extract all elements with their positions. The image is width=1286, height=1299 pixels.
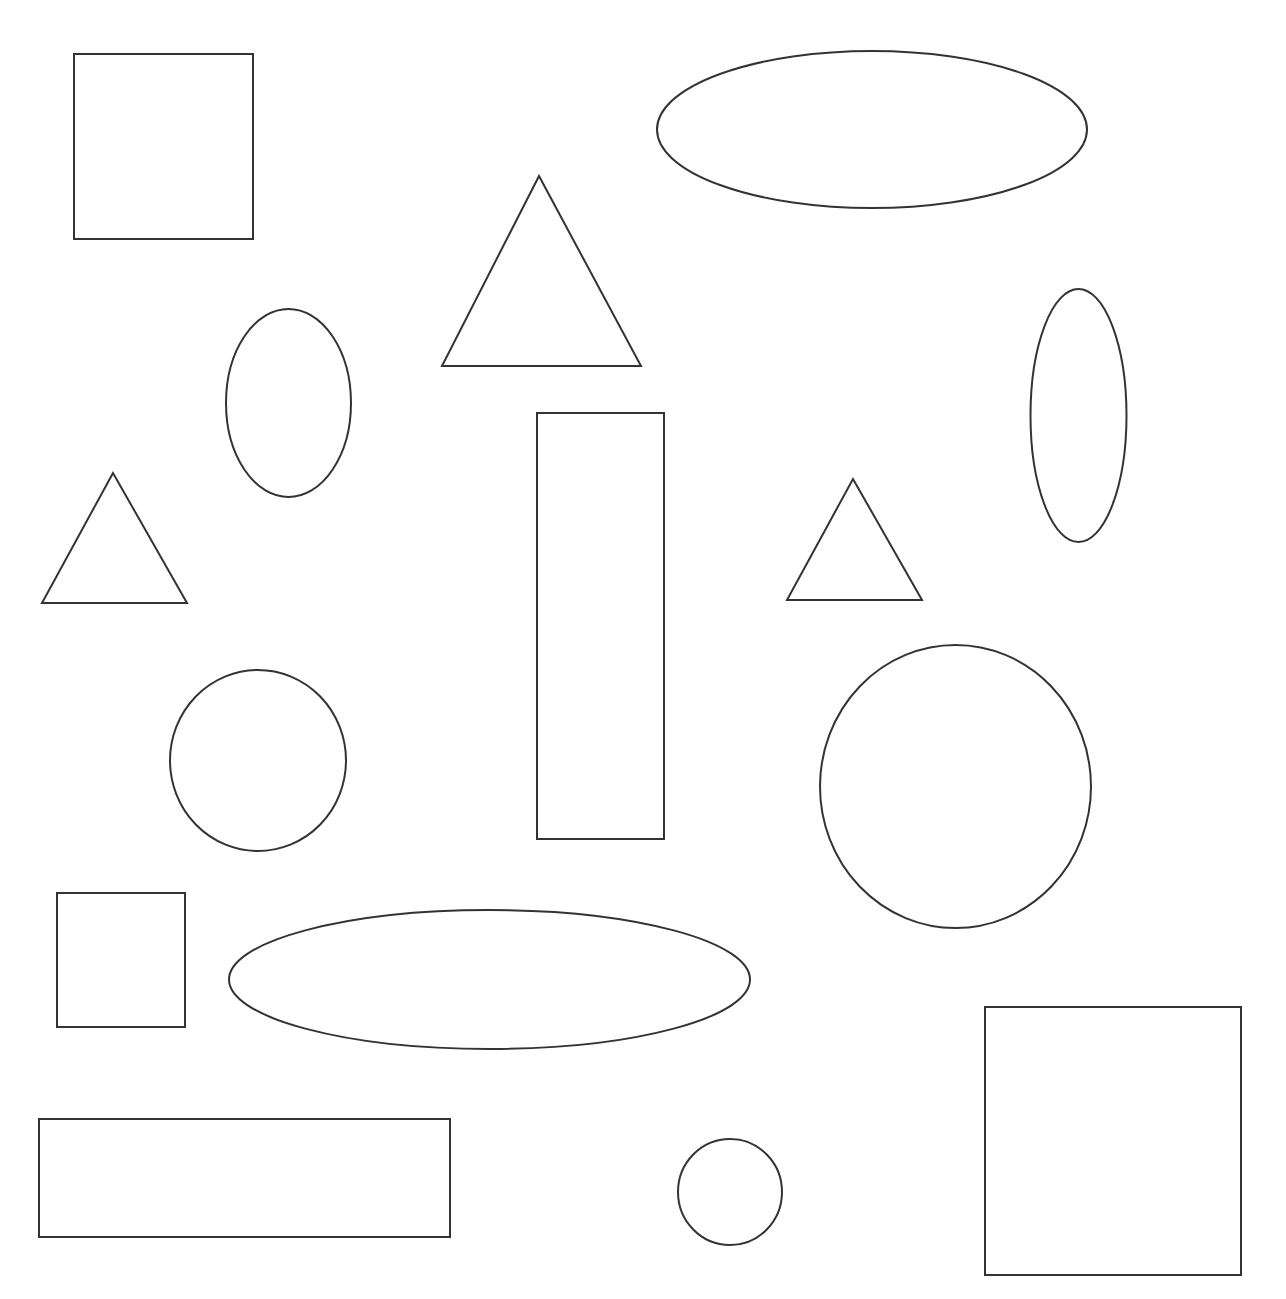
rectangle-wide — [39, 1119, 450, 1237]
circle-2 — [820, 645, 1091, 928]
ellipse-2 — [226, 309, 351, 497]
ellipse-3 — [1031, 289, 1127, 542]
square-1 — [74, 54, 253, 239]
triangle-2 — [42, 473, 187, 603]
shapes-canvas — [0, 0, 1286, 1299]
circle-3 — [678, 1139, 782, 1245]
triangle-1 — [442, 176, 641, 366]
square-2 — [57, 893, 185, 1027]
square-3 — [985, 1007, 1241, 1275]
triangle-3 — [787, 479, 922, 600]
circle-1 — [170, 670, 346, 851]
ellipse-1 — [657, 51, 1087, 208]
ellipse-4 — [229, 910, 750, 1049]
rectangle-tall — [537, 413, 664, 839]
